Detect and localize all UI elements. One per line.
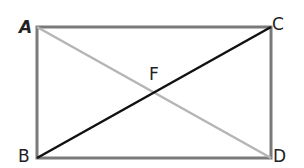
label-b: B	[18, 146, 30, 166]
label-a: A	[17, 17, 32, 37]
label-d: D	[273, 146, 286, 166]
label-c: C	[272, 14, 284, 34]
rectangle-diagonals-diagram: A C B D F	[0, 0, 304, 168]
label-f: F	[149, 64, 159, 84]
